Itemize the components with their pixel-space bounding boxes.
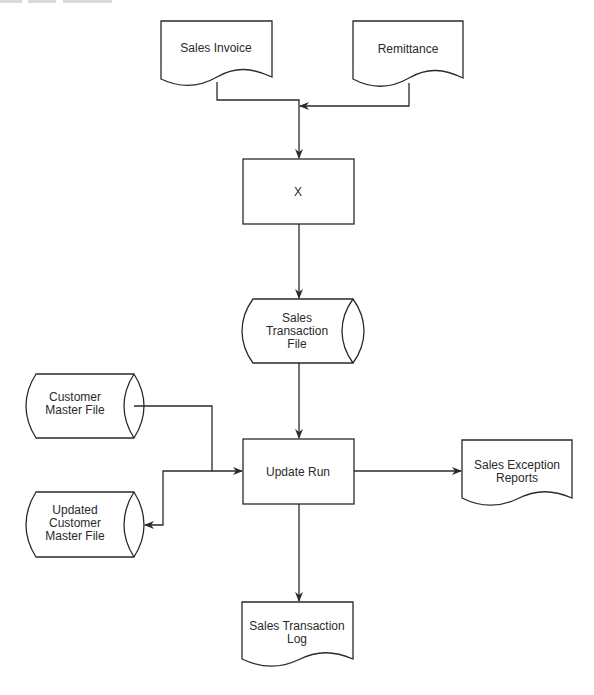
node-label: Sales Invoice [180,41,252,55]
node-updated-customer-master-file: Updated Customer Master File [26,492,144,557]
node-label: X [294,185,302,199]
node-sales-invoice: Sales Invoice [161,21,272,86]
node-label: Reports [496,471,538,485]
edge-invoice-to-x [217,82,299,158]
node-label: Master File [45,529,105,543]
node-remittance: Remittance [353,21,463,86]
node-label: Customer [49,390,101,404]
node-label: Updated [52,503,97,517]
node-label: Transaction [266,324,328,338]
node-x-process: X [243,159,354,224]
node-sales-transaction-file: Sales Transaction File [242,299,364,363]
node-label: File [287,337,307,351]
node-label: Sales Exception [474,458,560,472]
node-customer-master-file: Customer Master File [26,374,144,438]
edge-update-run-to-updated-master [145,471,212,525]
node-label: Sales [282,311,312,325]
node-sales-transaction-log: Sales Transaction Log [242,602,353,666]
node-sales-exception-reports: Sales Exception Reports [462,440,572,505]
node-label: Customer [49,516,101,530]
node-label: Remittance [378,42,439,56]
node-label: Log [287,632,307,646]
edge-master-to-update-run [134,406,242,471]
edge-remittance-to-x [300,83,409,106]
node-label: Update Run [266,465,330,479]
node-label: Master File [45,403,105,417]
node-label: Sales Transaction [249,619,344,633]
node-update-run: Update Run [243,439,354,504]
flowchart: Sales Invoice Remittance X Sales Transac… [0,0,594,695]
